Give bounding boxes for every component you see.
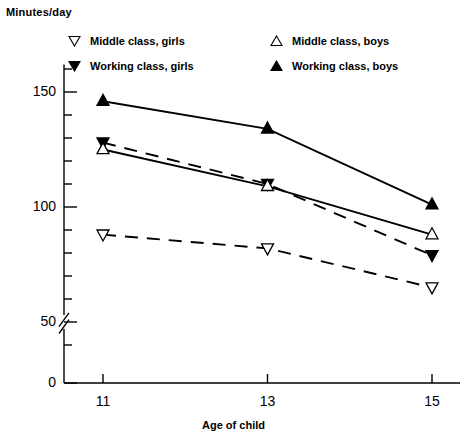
data-point-marker: [262, 244, 274, 255]
data-point-marker: [426, 283, 438, 294]
axis-layer: [59, 64, 460, 383]
line-chart: Minutes/day Age of child Middle class, g…: [0, 0, 467, 444]
series-line: [103, 150, 432, 235]
data-point-marker: [97, 94, 109, 105]
plot-area: [0, 0, 467, 444]
series-layer: [97, 94, 438, 294]
series-line: [103, 235, 432, 288]
data-point-marker: [426, 251, 438, 262]
